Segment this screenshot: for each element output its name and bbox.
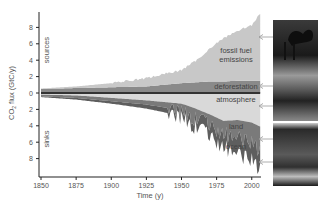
- chimney: [293, 44, 295, 60]
- x-tick-label: 1925: [139, 182, 155, 189]
- chimney: [284, 42, 286, 60]
- x-tick-label: 1975: [209, 182, 225, 189]
- x-tick-label: 1900: [103, 182, 119, 189]
- x-tick-label: 1875: [68, 182, 84, 189]
- annotation-atmosphere: atmosphere: [216, 95, 256, 104]
- sources-label: sources: [42, 37, 51, 64]
- y-tick-label: 6: [29, 40, 33, 47]
- y-tick-label: 4: [29, 122, 33, 129]
- y-tick-label: 4: [29, 57, 33, 64]
- y-tick-label: 8: [29, 155, 33, 162]
- x-tick-label: 1850: [33, 182, 49, 189]
- annotation-deforestation: deforestation: [214, 82, 257, 91]
- photo-strip: [273, 20, 318, 186]
- y-tick-label: 2: [29, 106, 33, 113]
- photo-land-ocean: [273, 123, 318, 186]
- x-tick-label: 1950: [174, 182, 190, 189]
- sinks-label: sinks: [42, 130, 51, 147]
- annotation-ocean: ocean: [226, 142, 246, 151]
- y-axis-title: CO2 flux (GtC/y): [7, 65, 17, 120]
- carbon-flux-chart: 0246824681850187519001925195019752000 fo…: [0, 0, 332, 208]
- y-tick-label: 2: [29, 73, 33, 80]
- annotation-fossil-fuel-emissions: fossil fuel: [220, 46, 252, 55]
- annotation-land: land: [229, 122, 243, 131]
- x-tick-label: 2000: [244, 182, 260, 189]
- annotation-fossil-fuel-emissions-line2: emissions: [219, 55, 253, 64]
- y-tick-label: 0: [29, 90, 33, 97]
- x-axis-title: Time (y): [136, 191, 164, 200]
- y-tick-label: 6: [29, 139, 33, 146]
- y-tick-label: 8: [29, 24, 33, 31]
